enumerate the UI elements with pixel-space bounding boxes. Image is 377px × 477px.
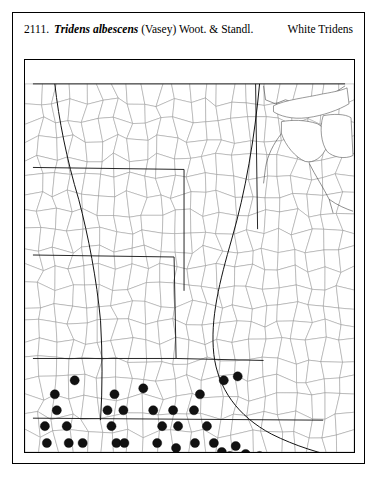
county-polygon: [231, 102, 248, 118]
county-polygon: [339, 308, 354, 327]
county-polygon: [86, 320, 98, 345]
occurrence-dot: [189, 406, 198, 415]
county-polygon: [312, 393, 325, 419]
plate-page: 2111.Tridens albescens (Vasey) Woot. & S…: [0, 0, 377, 477]
county-polygon: [56, 357, 69, 376]
occurrence-dot: [231, 441, 240, 450]
county-polygon: [84, 263, 99, 285]
county-polygon: [267, 155, 277, 177]
county-polygon: [216, 212, 237, 234]
county-polygon: [246, 84, 265, 106]
occurrence-dot: [64, 438, 73, 447]
occurrence-dot: [195, 390, 204, 399]
county-polygon: [336, 286, 354, 310]
species-authority: (Vasey) Woot. & Standl.: [141, 23, 253, 35]
occurrence-dot: [173, 422, 182, 431]
occurrence-dot: [190, 438, 199, 447]
county-polygon: [101, 432, 113, 452]
county-polygon: [232, 154, 251, 180]
county-polygon: [340, 375, 354, 394]
county-polygon: [321, 362, 343, 379]
occurrence-dot: [52, 406, 61, 415]
occurrence-dot: [209, 438, 218, 447]
plate-number: 2111.: [24, 23, 49, 35]
county-polygon: [25, 308, 41, 320]
occurrence-dot: [42, 438, 51, 447]
county-polygon: [25, 356, 39, 380]
common-name: White Tridens: [288, 22, 354, 36]
county-polygon: [97, 196, 115, 216]
county-polygon: [161, 233, 175, 252]
county-polygon: [262, 357, 278, 377]
occurrence-dot: [158, 422, 167, 431]
county-polygon: [73, 285, 87, 308]
county-polygon: [264, 393, 277, 415]
county-polygon: [99, 174, 115, 197]
county-polygon: [25, 227, 41, 251]
county-polygon: [81, 395, 100, 419]
occurrence-dot: [107, 422, 116, 431]
county-polygon: [25, 173, 43, 195]
occurrence-dot: [202, 422, 211, 431]
plate-frame: 2111.Tridens albescens (Vasey) Woot. & S…: [12, 12, 365, 464]
occurrence-dot: [169, 406, 178, 415]
county-polygon: [82, 227, 100, 247]
county-polygon: [84, 374, 97, 398]
county-polygon: [191, 98, 205, 123]
species-name: Tridens albescens: [49, 23, 138, 35]
county-polygon: [216, 263, 235, 288]
occurrence-dot: [119, 406, 128, 415]
occurrence-dot: [40, 422, 49, 431]
county-polygon: [263, 374, 277, 396]
occurrence-dot: [233, 372, 242, 381]
county-polygon: [307, 194, 323, 217]
map-canvas: [25, 60, 354, 452]
occurrence-dot: [78, 438, 87, 447]
occurrence-dot: [149, 406, 158, 415]
distribution-map: [24, 59, 355, 453]
occurrence-dot: [219, 376, 228, 385]
county-polygon: [324, 378, 340, 393]
county-polygon: [175, 209, 191, 234]
county-polygon: [82, 173, 101, 196]
county-polygon: [248, 117, 267, 142]
county-polygon: [339, 325, 354, 340]
occurrence-dot: [103, 406, 112, 415]
county-polygon: [262, 270, 279, 290]
county-polygon: [216, 153, 234, 176]
plate-caption: 2111.Tridens albescens (Vasey) Woot. & S…: [13, 13, 364, 53]
occurrence-dot: [120, 438, 129, 447]
occurrence-dot: [110, 390, 119, 399]
occurrence-dot: [70, 376, 79, 385]
caption-left: 2111.Tridens albescens (Vasey) Woot. & S…: [24, 22, 253, 36]
county-polygon: [25, 84, 42, 105]
county-polygon: [232, 339, 250, 361]
occurrence-dot: [50, 390, 59, 399]
county-polygon: [219, 361, 236, 376]
county-polygon: [205, 173, 216, 193]
occurrence-dot: [153, 438, 162, 447]
county-polygon: [309, 160, 322, 180]
county-polygon: [277, 285, 297, 305]
county-polygon: [127, 139, 148, 162]
occurrence-dot: [139, 384, 148, 393]
occurrence-dot: [62, 422, 71, 431]
county-polygon: [85, 142, 102, 162]
occurrence-dot: [172, 443, 181, 452]
county-polygon: [88, 432, 103, 452]
county-polygon: [160, 282, 175, 308]
